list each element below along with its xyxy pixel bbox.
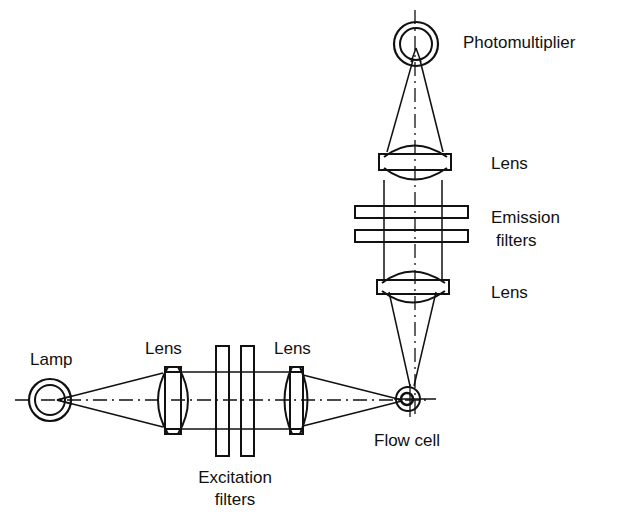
- excitation-filter-1: [216, 346, 229, 456]
- emission-filters-label-line2: filters: [496, 231, 537, 251]
- optical-diagram: [0, 0, 626, 517]
- excitation-filters-label-line2: filters: [180, 490, 290, 510]
- emission-filter-2: [355, 230, 468, 242]
- emission-lens-lower-icon: [377, 272, 449, 303]
- emission-filter-1: [355, 206, 468, 218]
- emission-filters-label-line1: Emission: [491, 208, 560, 228]
- photomultiplier-icon: [394, 22, 438, 66]
- emission-lens-upper-label: Lens: [491, 154, 528, 174]
- flow-cell-label: Flow cell: [374, 431, 440, 451]
- lamp-label: Lamp: [30, 350, 73, 370]
- emission-lens-lower-label: Lens: [491, 283, 528, 303]
- excitation-filter-2: [241, 346, 254, 456]
- excitation-filters-label-line1: Excitation: [180, 468, 290, 488]
- excitation-lens-1-label: Lens: [145, 339, 182, 359]
- photomultiplier-label: Photomultiplier: [463, 33, 575, 53]
- excitation-lens-2-label: Lens: [274, 339, 311, 359]
